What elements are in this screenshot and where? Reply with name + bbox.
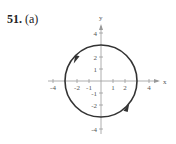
y-tick-label: 2 [94,54,98,62]
y-axis-label: y [99,14,103,22]
x-tick-label: -2 [74,84,80,92]
x-tick-label: 2 [123,84,127,92]
y-axis-arrow-icon [99,24,103,30]
y-tick-label: 1 [94,66,98,74]
direction-arrow-icon-upper-left [72,54,80,63]
x-tick-label: 4 [147,84,151,92]
x-tick-label: 1 [111,84,115,92]
circle-graph: x y -4-2-1124 421-1-2-4 [0,0,176,144]
y-tick-label: -2 [91,102,97,110]
y-tick-label: -4 [91,126,97,134]
x-axis-arrow-icon [154,79,160,83]
y-tick-label: 4 [94,30,98,38]
x-axis-label: x [163,78,167,86]
x-tick-label: -4 [50,84,56,92]
y-tick-label: -1 [91,90,97,98]
